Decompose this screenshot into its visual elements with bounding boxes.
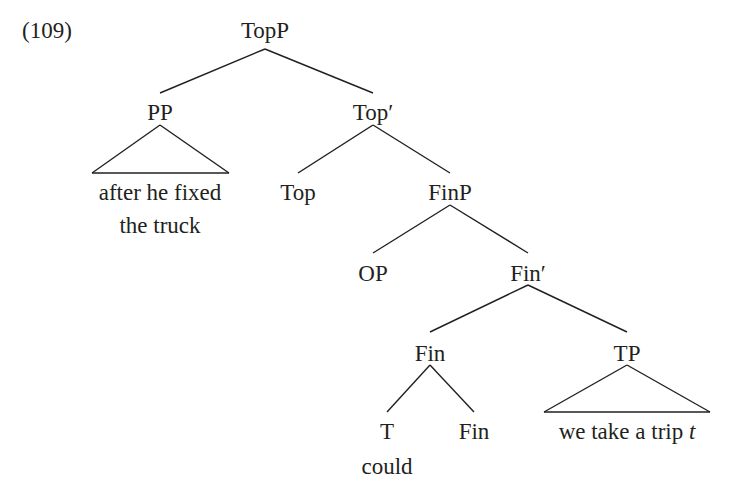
node-top-bar: Top′ bbox=[353, 101, 393, 124]
pp-triangle-left bbox=[92, 125, 160, 173]
pp-triangle-right bbox=[160, 125, 229, 173]
node-op: OP bbox=[358, 262, 387, 285]
node-tp: TP bbox=[614, 342, 641, 365]
branch-topp-pp bbox=[160, 49, 265, 93]
branch-finp-finbar bbox=[450, 205, 528, 253]
tp-triangle-right bbox=[627, 365, 710, 412]
node-top: Top bbox=[280, 181, 315, 204]
t-terminal-could: could bbox=[361, 455, 412, 478]
branch-fin-finhead bbox=[430, 365, 474, 412]
branch-finp-op bbox=[373, 205, 450, 253]
pp-terminal-line2: the truck bbox=[119, 214, 200, 237]
example-number: (109) bbox=[22, 19, 72, 42]
node-fin: Fin bbox=[415, 342, 446, 365]
node-pp: PP bbox=[147, 101, 173, 124]
node-fin-bar: Fin′ bbox=[510, 262, 546, 285]
node-finp: FinP bbox=[428, 181, 471, 204]
branch-finbar-tp bbox=[528, 285, 627, 332]
branch-topp-topbar bbox=[265, 49, 373, 93]
pp-terminal-line1: after he fixed bbox=[99, 181, 222, 204]
branch-topbar-finp bbox=[373, 125, 450, 173]
node-topp: TopP bbox=[241, 19, 289, 42]
tp-terminal-text: we take a trip bbox=[559, 419, 689, 444]
branch-topbar-top bbox=[298, 125, 373, 173]
branch-finbar-fin bbox=[430, 285, 528, 332]
node-t: T bbox=[380, 420, 394, 443]
trace-t: t bbox=[689, 419, 695, 444]
tp-terminal: we take a trip t bbox=[559, 420, 696, 443]
tp-triangle-left bbox=[544, 365, 627, 412]
branch-fin-t bbox=[387, 365, 430, 412]
node-fin-head: Fin bbox=[459, 420, 490, 443]
